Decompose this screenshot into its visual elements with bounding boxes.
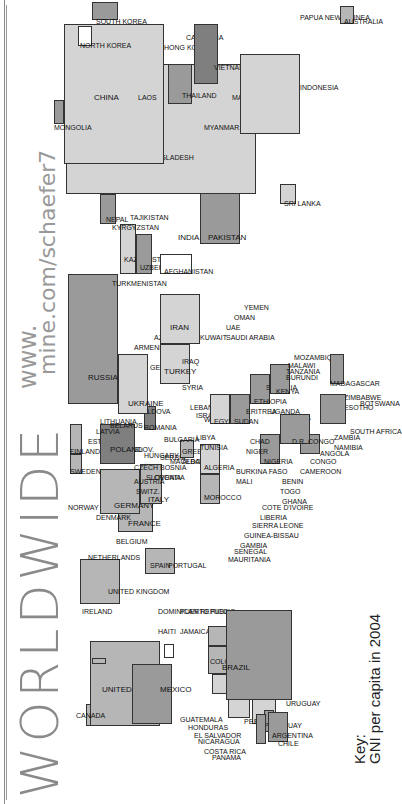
- label-iraq: IRAQ: [182, 358, 199, 366]
- country-mexico[interactable]: [132, 664, 172, 724]
- label-portugal: PORTUGAL: [168, 562, 206, 570]
- label-kenya: KENYA: [276, 388, 299, 396]
- country-ireland[interactable]: [92, 658, 106, 664]
- label-thailand: THAILAND: [182, 92, 217, 100]
- label-angola: ANGOLA: [320, 450, 349, 458]
- label-brazil: BRAZIL: [222, 664, 250, 672]
- label-liberia: LIBERIA: [260, 514, 287, 522]
- label-afghanistan: AFGHANISTAN: [164, 268, 213, 276]
- label-kyrgyzstan: KYRGYZSTAN: [112, 224, 159, 232]
- label-italy: ITALY: [148, 496, 169, 504]
- label-lithuania: LITHUANIA: [100, 418, 137, 426]
- title-rule: [6, 5, 7, 800]
- label-belgium: BELGIUM: [116, 538, 148, 546]
- label-china: CHINA: [94, 94, 119, 102]
- label-malawi: MALAWI: [288, 362, 315, 370]
- label-norway: NORWAY: [68, 504, 99, 512]
- label-finland: FINLAND: [70, 448, 100, 456]
- website-url[interactable]: www. mine.com/schaefer7: [18, 150, 58, 389]
- label-jamaica: JAMAICA: [180, 628, 210, 636]
- label-burkina-faso: BURKINA FASO: [236, 468, 287, 476]
- label-togo: TOGO: [280, 488, 300, 496]
- label-honduras: HONDURAS: [188, 724, 228, 732]
- label-mongolia: MONGOLIA: [54, 124, 92, 132]
- label-niger: NIGER: [246, 448, 268, 456]
- label-bulgaria: BULGARIA: [164, 436, 199, 444]
- country-mongolia[interactable]: [54, 100, 64, 124]
- label-uae: UAE: [226, 324, 240, 332]
- label-nicaragua: NICARAGUA: [198, 738, 240, 746]
- country-united-kingdom[interactable]: [80, 559, 120, 604]
- label-guinea-bissau: GUINEA-BISSAU: [244, 532, 299, 540]
- label-guatemala: GUATEMALA: [180, 716, 223, 724]
- key-description: GNI per capita in 2004: [367, 614, 382, 764]
- country-indonesia[interactable]: [240, 54, 300, 134]
- country-cuba[interactable]: [164, 644, 174, 658]
- label-morocco: MOROCCO: [204, 494, 241, 502]
- label-sierra-leone: SIERRA LEONE: [252, 522, 303, 530]
- label-russia: RUSSIA: [88, 374, 118, 382]
- label-panama: PANAMA: [212, 754, 241, 762]
- label-puerto-rico: PUERTO RICO: [180, 608, 228, 616]
- label-denmark: DENMARK: [96, 514, 131, 522]
- label-canada: CANADA: [76, 712, 105, 720]
- label-congo: CONGO: [310, 458, 336, 466]
- label-india: INDIA: [178, 234, 199, 242]
- label-turkmenistan: TURKMENISTAN: [112, 280, 167, 288]
- label-kuwait: KUWAIT: [200, 334, 227, 342]
- label-chad: CHAD: [250, 438, 270, 446]
- label-south-korea: SOUTH KOREA: [96, 18, 147, 26]
- country-iran[interactable]: [160, 294, 200, 344]
- label-sweden: SWEDEN: [70, 468, 101, 476]
- label-france: FRANCE: [128, 520, 161, 528]
- label-sri-lanka: SRI LANKA: [284, 200, 321, 208]
- legend-key: Key: GNI per capita in 2004: [352, 614, 382, 764]
- label-turkey: TURKEY: [164, 368, 196, 376]
- label-haiti: HAITI: [158, 628, 176, 636]
- label-yemen: YEMEN: [244, 304, 269, 312]
- label-dr-congo: D.R. CONGO: [292, 438, 334, 446]
- label-libya: LIBYA: [196, 434, 215, 442]
- country-brazil[interactable]: [226, 610, 292, 700]
- label-iran: IRAN: [170, 324, 189, 332]
- label-myanmar: MYANMAR: [204, 124, 239, 132]
- label-tunisia: TUNISIA: [200, 444, 228, 452]
- label-cameroon: CAMEROON: [300, 468, 341, 476]
- label-sudan: SUDAN: [234, 418, 259, 426]
- label-croatia: CROATIA: [154, 474, 185, 482]
- country-chile[interactable]: [256, 714, 266, 744]
- label-australia: AUSTRALIA: [344, 18, 383, 26]
- label-chile: CHILE: [278, 740, 299, 748]
- label-netherlands: NETHERLANDS: [88, 554, 140, 562]
- label-mali: MALI: [236, 478, 252, 486]
- page-title: WORLDWIDE: [10, 425, 70, 798]
- label-united-kingdom: UNITED KINGDOM: [108, 588, 169, 596]
- country-spain[interactable]: [145, 548, 175, 574]
- label-mexico: MEXICO: [160, 686, 192, 694]
- label-oman: OMAN: [234, 314, 255, 322]
- label-indonesia: INDONESIA: [300, 84, 339, 92]
- label-nigeria: NIGERIA: [264, 458, 293, 466]
- label-tajikistan: TAJIKISTAN: [130, 214, 169, 222]
- label-switzerland: SWITZ.: [136, 488, 160, 496]
- label-pakistan: PAKISTAN: [208, 234, 246, 242]
- label-saudi-arabia: SAUDI ARABIA: [226, 334, 275, 342]
- url-line2: mine.com/schaefer7: [38, 150, 58, 389]
- country-south-africa[interactable]: [320, 394, 346, 424]
- label-madagascar: MADAGASCAR: [330, 380, 380, 388]
- label-senegal: SENEGAL: [234, 548, 267, 556]
- label-laos: LAOS: [138, 94, 157, 102]
- country-russia[interactable]: [68, 274, 118, 404]
- label-mauritania: MAURITANIA: [228, 556, 271, 564]
- country-vietnam[interactable]: [194, 24, 218, 84]
- label-benin: BENIN: [282, 478, 303, 486]
- label-north-korea: NORTH KOREA: [80, 42, 131, 50]
- label-czech: CZECH: [134, 464, 158, 472]
- label-syria: SYRIA: [182, 384, 203, 392]
- label-romania: ROMANIA: [144, 424, 177, 432]
- label-latvia: LATVIA: [96, 428, 120, 436]
- label-algeria: ALGERIA: [204, 464, 234, 472]
- label-ethiopia: ETHIOPIA: [254, 398, 287, 406]
- label-ireland: IRELAND: [82, 608, 112, 616]
